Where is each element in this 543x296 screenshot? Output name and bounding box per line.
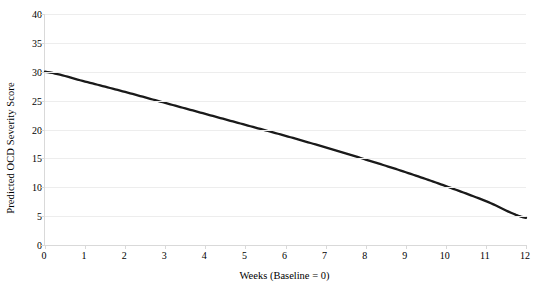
line-path: [45, 72, 526, 218]
x-tick-label: 9: [402, 250, 407, 261]
x-tick-label: 3: [162, 250, 167, 261]
gridline-y: [45, 216, 526, 217]
x-tick-mark: [526, 245, 527, 249]
x-tick-mark: [205, 245, 206, 249]
x-tick-mark: [125, 245, 126, 249]
x-tick-mark: [406, 245, 407, 249]
x-tick-label: 10: [440, 250, 450, 261]
gridline-y: [45, 14, 526, 15]
plot-area: [44, 14, 526, 246]
x-tick-mark: [326, 245, 327, 249]
y-tick-mark: [41, 43, 45, 44]
y-axis-tick-labels: 0510152025303540: [20, 0, 42, 296]
x-tick-mark: [165, 245, 166, 249]
gridline-y: [45, 130, 526, 131]
y-axis-title: Predicted OCD Severity Score: [0, 0, 20, 296]
gridline-y: [45, 101, 526, 102]
x-tick-label: 0: [42, 250, 47, 261]
gridline-y: [45, 187, 526, 188]
x-axis-tick-labels: 0123456789101112: [44, 250, 525, 266]
x-tick-mark: [486, 245, 487, 249]
x-tick-label: 4: [202, 250, 207, 261]
y-tick-mark: [41, 216, 45, 217]
x-tick-label: 11: [480, 250, 490, 261]
x-tick-mark: [286, 245, 287, 249]
x-tick-mark: [245, 245, 246, 249]
chart-container: Predicted OCD Severity Score 05101520253…: [0, 0, 543, 296]
x-tick-label: 12: [520, 250, 530, 261]
x-axis-title: Weeks (Baseline = 0): [44, 270, 525, 281]
y-tick-mark: [41, 101, 45, 102]
y-tick-mark: [41, 72, 45, 73]
gridline-y: [45, 43, 526, 44]
x-tick-label: 8: [362, 250, 367, 261]
x-tick-label: 7: [322, 250, 327, 261]
x-tick-mark: [366, 245, 367, 249]
y-tick-mark: [41, 14, 45, 15]
x-tick-mark: [446, 245, 447, 249]
x-tick-label: 1: [82, 250, 87, 261]
y-tick-mark: [41, 130, 45, 131]
y-tick-mark: [41, 187, 45, 188]
x-tick-label: 2: [122, 250, 127, 261]
x-tick-label: 5: [242, 250, 247, 261]
gridline-y: [45, 158, 526, 159]
y-tick-mark: [41, 158, 45, 159]
x-tick-label: 6: [282, 250, 287, 261]
x-tick-mark: [45, 245, 46, 249]
gridline-y: [45, 72, 526, 73]
x-tick-mark: [85, 245, 86, 249]
